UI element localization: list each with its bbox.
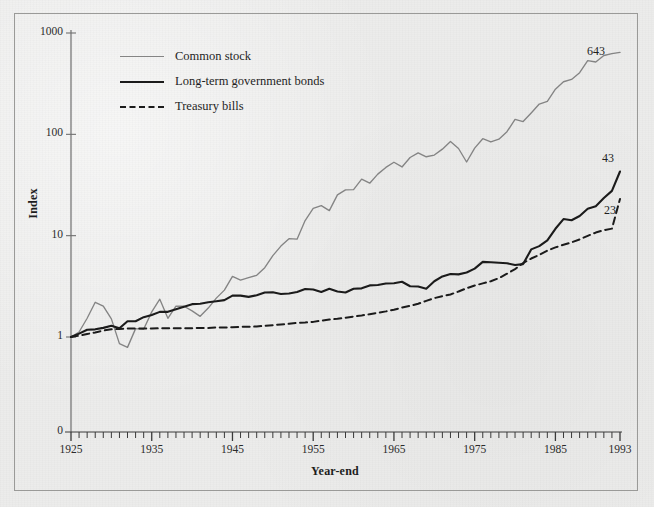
- legend-item[interactable]: Long-term government bonds: [120, 73, 324, 89]
- legend-label: Long-term government bonds: [175, 74, 324, 89]
- legend-swatch-solid-icon: [120, 50, 164, 62]
- series-line-1: [71, 171, 620, 337]
- legend-label: Common stock: [175, 49, 251, 64]
- legend-item[interactable]: Treasury bills: [120, 98, 244, 114]
- y-tick-label: 0: [16, 424, 63, 436]
- x-tick-label: 1993: [592, 443, 648, 455]
- x-tick-label: 1965: [366, 443, 422, 455]
- x-tick-label: 1945: [204, 443, 260, 455]
- chart-plot-area: [0, 0, 654, 507]
- series-line-2: [71, 199, 620, 337]
- x-tick-label: 1985: [527, 443, 583, 455]
- endpoint-value-label: 23: [604, 203, 616, 218]
- y-tick-label: 1000: [16, 25, 63, 37]
- y-tick-label: 1: [16, 329, 63, 341]
- x-tick-label: 1975: [447, 443, 503, 455]
- legend-swatch-solid-icon: [120, 75, 164, 87]
- y-axis-title: Index: [26, 169, 41, 239]
- y-tick-label: 100: [16, 126, 63, 138]
- legend-item[interactable]: Common stock: [120, 48, 251, 64]
- legend-label: Treasury bills: [175, 99, 244, 114]
- legend-swatch-dashed-icon: [120, 100, 164, 112]
- x-tick-label: 1955: [285, 443, 341, 455]
- figure-page: 1000100101019251935194519551965197519851…: [0, 0, 654, 507]
- x-axis-ticks: [71, 432, 620, 441]
- series-lines: [71, 52, 620, 347]
- series-line-0: [71, 52, 620, 347]
- axis-lines: [65, 30, 622, 432]
- x-tick-label: 1935: [124, 443, 180, 455]
- x-tick-label: 1925: [43, 443, 99, 455]
- x-axis-title: Year-end: [255, 464, 415, 479]
- endpoint-value-label: 43: [602, 151, 614, 166]
- endpoint-value-label: 643: [587, 44, 605, 59]
